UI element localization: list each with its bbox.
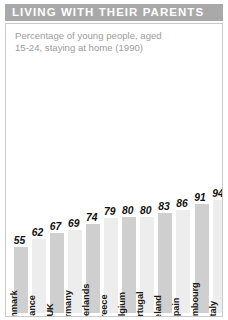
bar-category-label: Portugal xyxy=(133,292,147,317)
bar-value-label: 67 xyxy=(50,221,61,232)
bar-category-label: Germany xyxy=(61,290,75,317)
bar-group: 91Luxembourg xyxy=(195,204,209,313)
bar-value-label: 80 xyxy=(122,205,133,216)
bar-category-label: Luxembourg xyxy=(188,282,202,317)
bar-value-label: 62 xyxy=(32,227,43,238)
bar-value-label: 94 xyxy=(212,188,223,199)
bar: 62France xyxy=(32,239,46,313)
bar-group: 94Italy xyxy=(213,200,223,313)
bar-category-label: Greece xyxy=(97,295,111,317)
bar-category-label: Italy xyxy=(206,301,220,317)
bar-category-label: Belgium xyxy=(115,292,129,317)
plot-area: 55Denmark62France67UK69Germany74Netherla… xyxy=(6,24,222,316)
chart-figure: LIVING WITH THEIR PARENTS Percentage of … xyxy=(0,0,228,320)
bar-value-label: 83 xyxy=(158,201,169,212)
bar-value-label: 91 xyxy=(194,192,205,203)
bar-value-label: 55 xyxy=(14,235,25,246)
bar-category-label: UK xyxy=(43,303,57,316)
chart-banner: LIVING WITH THEIR PARENTS xyxy=(5,4,223,21)
bar-value-label: 80 xyxy=(140,205,151,216)
bar-category-label: Denmark xyxy=(7,290,21,317)
bar-group: 62France xyxy=(32,239,46,313)
bar-category-label: France xyxy=(25,295,39,317)
chart-panel: Percentage of young people, aged 15-24, … xyxy=(5,23,223,317)
bar-value-label: 69 xyxy=(68,218,79,229)
bar-value-label: 86 xyxy=(176,198,187,209)
bar-category-label: Spain xyxy=(169,298,183,317)
bar: 94Italy xyxy=(213,200,223,313)
bar-value-label: 74 xyxy=(86,212,97,223)
chart-title: LIVING WITH THEIR PARENTS xyxy=(12,7,204,19)
bar-category-label: Ireland xyxy=(151,295,165,317)
bar-value-label: 79 xyxy=(104,206,115,217)
bar-category-label: Netherlands xyxy=(79,284,93,317)
bar: 91Luxembourg xyxy=(195,204,209,313)
